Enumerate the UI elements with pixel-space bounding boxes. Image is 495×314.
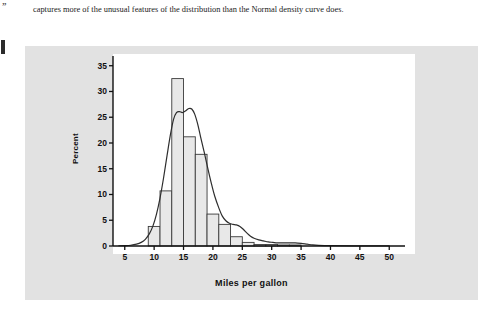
x-tick-label: 25: [230, 252, 254, 262]
x-tick-label: 30: [260, 252, 284, 262]
density-curve: [119, 108, 389, 246]
y-tick-label: 25: [83, 112, 107, 122]
histogram-bar: [184, 137, 196, 246]
y-tick-label: 5: [83, 215, 107, 225]
y-axis-title: Percent: [71, 133, 80, 164]
y-tick-label: 10: [83, 189, 107, 199]
y-tick-label: 35: [83, 61, 107, 71]
x-tick-label: 45: [348, 252, 372, 262]
figure-panel: Percent Miles per gallon 05101520253035 …: [25, 46, 478, 300]
x-tick-label: 15: [172, 252, 196, 262]
margin-quote-glyph: ”: [2, 1, 6, 11]
x-tick-label: 35: [289, 252, 313, 262]
y-tick-label: 30: [83, 86, 107, 96]
histogram-bar: [148, 226, 160, 246]
x-tick-label: 20: [201, 252, 225, 262]
histogram-bar: [219, 224, 231, 246]
histogram-bar: [160, 191, 172, 246]
histogram-bar: [231, 237, 243, 246]
histogram-bar: [195, 154, 207, 246]
body-paragraph: captures more of the unusual features of…: [33, 4, 483, 16]
x-tick-label: 10: [142, 252, 166, 262]
x-tick-label: 40: [318, 252, 342, 262]
histogram-bar: [172, 79, 184, 246]
histogram-bar: [207, 214, 219, 246]
x-tick-label: 5: [113, 252, 137, 262]
y-tick-label: 20: [83, 138, 107, 148]
y-tick-label: 15: [83, 164, 107, 174]
x-tick-label: 50: [377, 252, 401, 262]
x-axis-title: Miles per gallon: [25, 278, 478, 288]
axes: [109, 56, 405, 250]
margin-rule-mark: [1, 40, 5, 54]
histogram-bars: [148, 79, 301, 246]
y-tick-label: 0: [83, 241, 107, 251]
